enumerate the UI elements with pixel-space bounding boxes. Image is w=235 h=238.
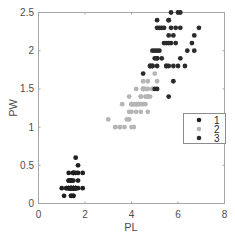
- data-point-series-2: [129, 109, 134, 114]
- data-point-series-2: [145, 87, 150, 92]
- data-point-series-2: [155, 79, 160, 84]
- data-point-series-3: [157, 25, 162, 30]
- data-point-series-2: [152, 71, 157, 76]
- data-point-series-3: [141, 71, 146, 76]
- y-tick-label: 1: [28, 122, 34, 133]
- x-tick-label: 6: [175, 209, 181, 220]
- x-tick-label: 4: [129, 209, 135, 220]
- data-point-series-3: [176, 64, 181, 69]
- data-point-series-1: [73, 155, 78, 160]
- data-point-series-3: [192, 33, 197, 38]
- data-point-series-3: [155, 64, 160, 69]
- data-point-series-3: [171, 64, 176, 69]
- y-tick-label: 2.5: [20, 7, 34, 18]
- data-point-series-3: [173, 41, 178, 46]
- data-point-series-1: [69, 178, 74, 183]
- data-point-series-3: [173, 25, 178, 30]
- data-point-series-2: [120, 102, 125, 107]
- data-point-series-3: [159, 56, 164, 61]
- data-point-series-3: [155, 87, 160, 92]
- data-point-series-1: [71, 171, 76, 176]
- data-point-series-2: [131, 102, 136, 107]
- data-point-series-3: [171, 79, 176, 84]
- data-point-series-1: [66, 171, 71, 176]
- data-point-series-1: [59, 186, 64, 191]
- data-point-series-3: [190, 41, 195, 46]
- data-point-series-2: [148, 94, 153, 99]
- scatter-chart: 0246800.511.522.5 PL PW 1 2 3: [0, 0, 235, 238]
- data-point-series-2: [122, 125, 127, 130]
- x-tick-label: 2: [82, 209, 88, 220]
- data-point-series-3: [166, 41, 171, 46]
- data-point-series-1: [80, 171, 85, 176]
- plot-area: [39, 13, 225, 204]
- x-axis-label: PL: [124, 221, 137, 233]
- data-point-series-2: [145, 79, 150, 84]
- data-point-series-3: [197, 25, 202, 30]
- data-point-series-1: [62, 193, 67, 198]
- data-point-series-2: [113, 125, 118, 130]
- data-point-series-3: [178, 56, 183, 61]
- data-point-series-1: [80, 186, 85, 191]
- data-point-series-1: [76, 163, 81, 168]
- data-point-series-3: [171, 33, 176, 38]
- data-point-series-3: [164, 64, 169, 69]
- data-point-series-3: [157, 48, 162, 53]
- data-point-series-2: [141, 79, 146, 84]
- data-point-series-3: [192, 48, 197, 53]
- data-point-series-3: [178, 10, 183, 15]
- data-point-series-3: [166, 33, 171, 38]
- data-point-series-3: [166, 18, 171, 23]
- data-point-series-2: [131, 125, 136, 130]
- data-point-series-2: [136, 102, 141, 107]
- x-tick-label: 8: [222, 209, 228, 220]
- data-point-series-3: [183, 64, 188, 69]
- data-point-series-3: [169, 10, 174, 15]
- data-point-series-3: [162, 25, 167, 30]
- data-point-series-1: [76, 178, 81, 183]
- y-tick-label: 1.5: [20, 83, 34, 94]
- data-point-series-2: [141, 87, 146, 92]
- data-point-series-1: [69, 193, 74, 198]
- data-point-series-2: [117, 125, 122, 130]
- data-point-series-2: [134, 109, 139, 114]
- y-tick-label: 0.5: [20, 160, 34, 171]
- data-point-series-1: [69, 186, 74, 191]
- legend-marker-1: [197, 118, 202, 123]
- data-point-series-3: [169, 25, 174, 30]
- data-point-series-3: [155, 18, 160, 23]
- data-point-series-2: [124, 117, 129, 122]
- legend: 1 2 3: [184, 114, 226, 144]
- data-point-series-2: [143, 102, 148, 107]
- y-tick-label: 0: [28, 198, 34, 209]
- legend-label-3: 3: [214, 133, 220, 144]
- y-axis-label: PW: [7, 99, 19, 117]
- legend-marker-3: [197, 136, 202, 141]
- data-point-series-3: [152, 56, 157, 61]
- data-point-series-3: [150, 48, 155, 53]
- data-point-series-2: [106, 117, 111, 122]
- data-point-series-2: [127, 94, 132, 99]
- data-point-series-2: [138, 109, 143, 114]
- data-point-series-3: [166, 94, 171, 99]
- data-point-series-2: [138, 94, 143, 99]
- y-tick-label: 2: [28, 45, 34, 56]
- data-point-series-3: [162, 41, 167, 46]
- data-point-series-2: [143, 94, 148, 99]
- legend-marker-2: [197, 127, 202, 132]
- data-point-series-2: [134, 87, 139, 92]
- data-point-series-3: [148, 64, 153, 69]
- data-point-series-2: [145, 109, 150, 114]
- x-tick-label: 0: [36, 209, 42, 220]
- data-point-series-3: [178, 25, 183, 30]
- data-point-series-3: [185, 48, 190, 53]
